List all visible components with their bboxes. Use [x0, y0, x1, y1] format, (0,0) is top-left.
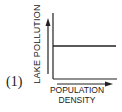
- x-direction-arrow-icon: [57, 82, 113, 87]
- y-direction-arrow-icon: [46, 18, 51, 74]
- line-chart: (1) LAKE POLLUTION POPULATION DENSITY: [0, 0, 122, 112]
- plot-area: [0, 0, 122, 112]
